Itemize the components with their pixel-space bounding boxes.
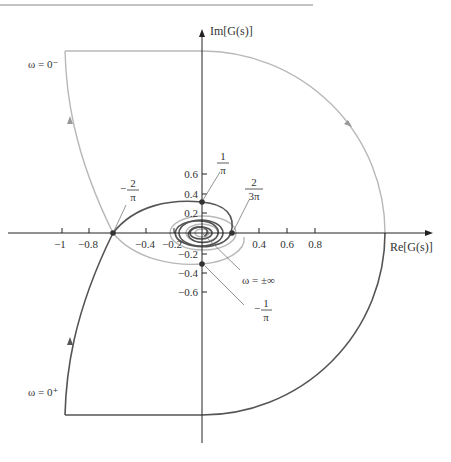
label-neg-2-over-pi: − 2 π: [120, 177, 139, 203]
axes: [8, 34, 428, 443]
nyquist-plot: Im[G(s)] Re[G(s)] −1 −0.8 −0.4 −0.2 0.4 …: [0, 0, 451, 462]
label-neg-1-over-pi: − 1 π: [254, 297, 272, 323]
label-omega-0-minus: ω = 0⁻: [28, 58, 58, 70]
svg-text:0.8: 0.8: [308, 238, 322, 250]
svg-text:−0.8: −0.8: [78, 238, 98, 250]
svg-text:3π: 3π: [248, 190, 260, 202]
svg-text:2: 2: [130, 177, 136, 189]
svg-text:−0.6: −0.6: [178, 286, 198, 298]
svg-text:π: π: [220, 164, 226, 176]
svg-text:0.4: 0.4: [184, 188, 198, 200]
svg-text:−: −: [254, 302, 260, 314]
svg-text:−0.4: −0.4: [178, 267, 198, 279]
x-axis-label: Re[G(s)]: [390, 240, 433, 254]
svg-text:0.2: 0.2: [184, 207, 198, 219]
svg-text:−: −: [120, 182, 126, 194]
arrow-dark-left: [67, 337, 73, 345]
label-two-over-3pi: 2 3π: [245, 176, 263, 202]
label-omega-0-plus: ω = 0⁺: [28, 386, 58, 398]
y-axis-arrow: [199, 29, 205, 37]
svg-text:2: 2: [251, 176, 257, 188]
svg-text:π: π: [263, 311, 269, 323]
label-omega-inf: ω = ±∞: [242, 274, 275, 286]
svg-text:0.6: 0.6: [184, 168, 198, 180]
svg-text:1: 1: [220, 150, 226, 162]
svg-text:π: π: [130, 191, 136, 203]
svg-text:0.4: 0.4: [252, 238, 266, 250]
svg-text:−0.2: −0.2: [178, 248, 198, 260]
label-one-over-pi: 1 π: [217, 150, 229, 176]
y-axis-label: Im[G(s)]: [210, 24, 253, 38]
svg-text:−1: −1: [54, 238, 66, 250]
svg-text:0.6: 0.6: [280, 238, 294, 250]
svg-text:−0.4: −0.4: [135, 238, 155, 250]
arrow-light-top: [344, 120, 352, 127]
x-axis-arrow: [425, 230, 433, 236]
svg-text:1: 1: [263, 297, 269, 309]
